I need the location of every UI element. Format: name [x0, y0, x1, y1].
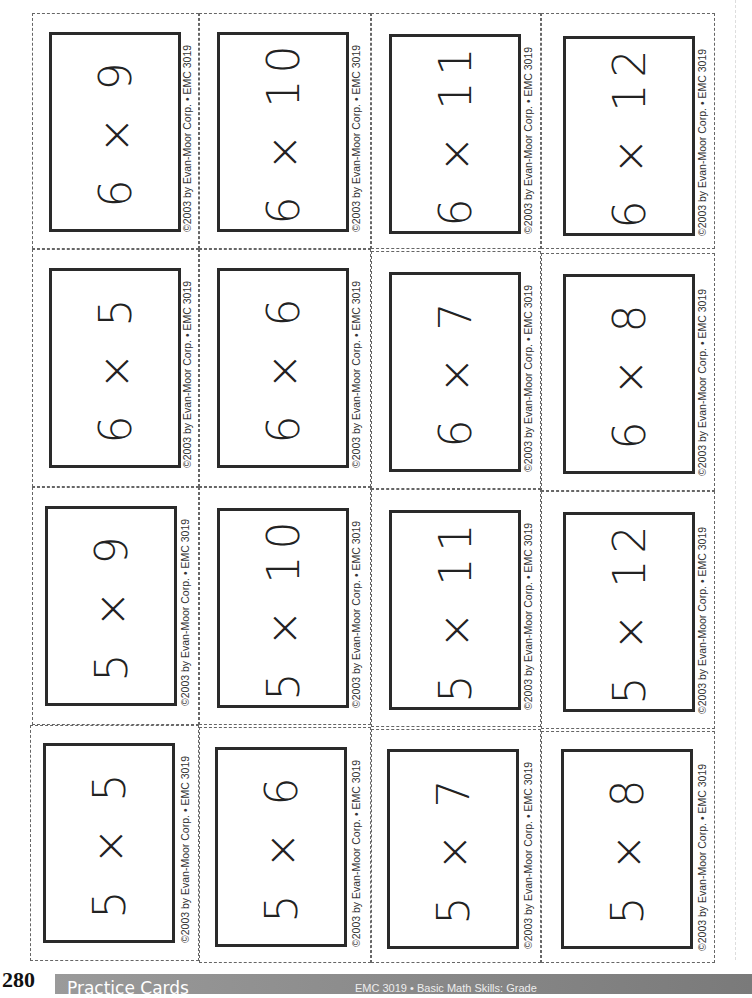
- card-cell: 5 × 12 ©2003 by Evan-Moor Corp. • EMC 30…: [541, 491, 715, 729]
- flash-card: 6 × 10: [217, 32, 349, 232]
- card-copyright: ©2003 by Evan-Moor Corp. • EMC 3019: [181, 281, 193, 468]
- flash-card: 6 × 6: [217, 268, 349, 468]
- card-fact: 6 × 9: [90, 57, 141, 208]
- card-cell: 5 × 6 ©2003 by Evan-Moor Corp. • EMC 301…: [199, 727, 371, 963]
- card-copyright: ©2003 by Evan-Moor Corp. • EMC 3019: [181, 45, 193, 232]
- page-footer: 280 Practice Cards EMC 3019 • Basic Math…: [0, 966, 752, 991]
- card-fact: 5 × 8: [602, 774, 653, 925]
- card-cell: 6 × 10 ©2003 by Evan-Moor Corp. • EMC 30…: [199, 13, 371, 249]
- flash-card: 6 × 12: [563, 36, 695, 236]
- card-cell: 6 × 9 ©2003 by Evan-Moor Corp. • EMC 301…: [32, 13, 199, 249]
- page-number: 280: [2, 967, 35, 993]
- card-cell: 5 × 10 ©2003 by Evan-Moor Corp. • EMC 30…: [199, 487, 371, 725]
- flash-card: 5 × 7: [387, 749, 519, 949]
- flash-card: 5 × 11: [389, 510, 521, 710]
- card-fact: 5 × 11: [430, 518, 481, 703]
- flash-card: 5 × 9: [45, 506, 177, 706]
- card-cell: 5 × 11 ©2003 by Evan-Moor Corp. • EMC 30…: [371, 489, 541, 727]
- card-fact: 5 × 9: [86, 531, 137, 682]
- card-cell: 5 × 5 ©2003 by Evan-Moor Corp. • EMC 301…: [30, 725, 199, 961]
- card-cell: 6 × 5 ©2003 by Evan-Moor Corp. • EMC 301…: [32, 249, 199, 487]
- card-cell: 5 × 7 ©2003 by Evan-Moor Corp. • EMC 301…: [371, 729, 541, 963]
- card-fact: 5 × 12: [604, 520, 655, 705]
- section-band: Practice Cards EMC 3019 • Basic Math Ski…: [55, 974, 752, 994]
- card-fact: 5 × 5: [84, 768, 135, 919]
- card-copyright: ©2003 by Evan-Moor Corp. • EMC 3019: [696, 764, 708, 951]
- flash-card: 5 × 8: [561, 749, 693, 949]
- card-fact: 6 × 12: [604, 44, 655, 229]
- card-copyright: ©2003 by Evan-Moor Corp. • EMC 3019: [522, 762, 534, 949]
- card-copyright: ©2003 by Evan-Moor Corp. • EMC 3019: [522, 523, 534, 710]
- card-fact: 6 × 10: [258, 40, 309, 225]
- flash-card: 5 × 10: [217, 508, 349, 708]
- card-fact: 5 × 6: [256, 772, 307, 923]
- card-copyright: ©2003 by Evan-Moor Corp. • EMC 3019: [179, 756, 191, 943]
- card-copyright: ©2003 by Evan-Moor Corp. • EMC 3019: [350, 281, 362, 468]
- card-fact: 5 × 7: [428, 774, 479, 925]
- card-fact: 6 × 5: [90, 293, 141, 444]
- card-copyright: ©2003 by Evan-Moor Corp. • EMC 3019: [696, 527, 708, 714]
- flash-card: 6 × 7: [389, 272, 521, 472]
- flash-card: 5 × 6: [215, 747, 347, 947]
- section-title: Practice Cards: [67, 978, 189, 998]
- card-cell: 6 × 8 ©2003 by Evan-Moor Corp. • EMC 301…: [541, 253, 715, 491]
- card-copyright: ©2003 by Evan-Moor Corp. • EMC 3019: [696, 49, 708, 236]
- card-cell: 6 × 12 ©2003 by Evan-Moor Corp. • EMC 30…: [541, 13, 715, 249]
- flash-card: 5 × 12: [563, 512, 695, 712]
- flash-card: 6 × 5: [49, 268, 181, 468]
- flash-card: 6 × 8: [563, 274, 695, 474]
- card-fact: 6 × 6: [258, 293, 309, 444]
- card-fact: 6 × 8: [604, 299, 655, 450]
- card-fact: 6 × 11: [430, 42, 481, 227]
- card-copyright: ©2003 by Evan-Moor Corp. • EMC 3019: [522, 47, 534, 234]
- card-cell: 5 × 9 ©2003 by Evan-Moor Corp. • EMC 301…: [32, 487, 199, 725]
- card-cell: 5 × 8 ©2003 by Evan-Moor Corp. • EMC 301…: [541, 731, 715, 963]
- card-fact: 6 × 7: [430, 297, 481, 448]
- card-copyright: ©2003 by Evan-Moor Corp. • EMC 3019: [696, 289, 708, 476]
- card-fact: 5 × 10: [258, 516, 309, 701]
- flash-card: 6 × 11: [389, 34, 521, 234]
- card-copyright: ©2003 by Evan-Moor Corp. • EMC 3019: [179, 519, 191, 706]
- flash-card: 5 × 5: [43, 743, 175, 943]
- card-cell: 6 × 6 ©2003 by Evan-Moor Corp. • EMC 301…: [199, 249, 371, 487]
- card-copyright: ©2003 by Evan-Moor Corp. • EMC 3019: [350, 521, 362, 708]
- book-reference: EMC 3019 • Basic Math Skills: Grade: [355, 982, 537, 994]
- card-cell: 6 × 7 ©2003 by Evan-Moor Corp. • EMC 301…: [371, 251, 541, 489]
- card-cell: 6 × 11 ©2003 by Evan-Moor Corp. • EMC 30…: [371, 13, 541, 249]
- flash-card: 6 × 9: [49, 32, 181, 232]
- card-copyright: ©2003 by Evan-Moor Corp. • EMC 3019: [522, 285, 534, 472]
- margin-guide: [735, 0, 736, 960]
- card-copyright: ©2003 by Evan-Moor Corp. • EMC 3019: [350, 45, 362, 232]
- card-copyright: ©2003 by Evan-Moor Corp. • EMC 3019: [350, 760, 362, 947]
